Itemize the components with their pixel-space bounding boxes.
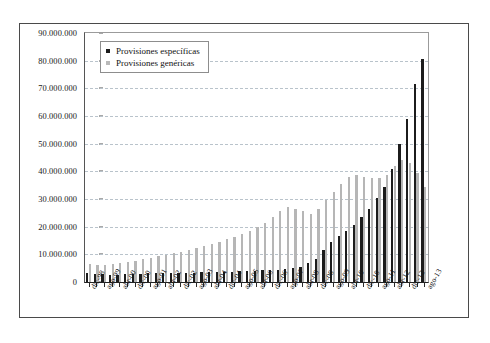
bar-group — [276, 33, 284, 282]
bar-provisiones-genericas — [348, 177, 350, 282]
bar-group — [222, 33, 230, 282]
bar-provisiones-genericas — [150, 258, 152, 282]
y-tick-label: 0 — [73, 278, 77, 287]
bar-group — [321, 33, 329, 282]
bar-group — [382, 33, 390, 282]
bar-group — [420, 33, 428, 282]
legend-label-especificas: Provisiones específicas — [116, 45, 200, 57]
y-tick-label: 10.000.000 — [38, 250, 77, 259]
legend-swatch-icon-genericas — [106, 61, 110, 65]
bar-group — [253, 33, 261, 282]
bar-group — [329, 33, 337, 282]
legend-label-genericas: Provisiones genéricas — [116, 57, 194, 69]
legend-swatch-icon-especificas — [106, 49, 110, 53]
bar-group — [215, 33, 223, 282]
bar-provisiones-genericas — [180, 252, 182, 282]
bar-group — [268, 33, 276, 282]
bar-provisiones-genericas — [89, 264, 91, 282]
bar-provisiones-genericas — [409, 163, 411, 282]
bar-group — [352, 33, 360, 282]
bar-provisiones-genericas — [386, 175, 388, 282]
bar-provisiones-genericas — [401, 160, 403, 282]
bar-provisiones-especificas — [86, 273, 88, 282]
bar-group — [344, 33, 352, 282]
bar-group — [237, 33, 245, 282]
bar-group — [230, 33, 238, 282]
bar-group — [405, 33, 413, 282]
bar-provisiones-genericas — [378, 178, 380, 282]
bar-provisiones-especificas — [406, 119, 408, 282]
bar-provisiones-genericas — [371, 178, 373, 282]
y-axis: 90.000.00080.000.00070.000.00060.000.000… — [19, 23, 81, 318]
bar-provisiones-genericas — [333, 192, 335, 282]
bar-provisiones-especificas — [391, 169, 393, 282]
bar-group — [367, 33, 375, 282]
y-tick-label: 80.000.000 — [38, 56, 77, 65]
y-tick-label: 70.000.000 — [38, 84, 77, 93]
bar-group — [260, 33, 268, 282]
bar-provisiones-especificas — [368, 209, 370, 282]
bar-provisiones-genericas — [424, 187, 426, 282]
y-tick-label: 20.000.000 — [38, 222, 77, 231]
legend-item-genericas: Provisiones genéricas — [106, 57, 200, 69]
y-tick-label: 30.000.000 — [38, 195, 77, 204]
bar-provisiones-genericas — [355, 175, 357, 282]
chart-legend: Provisiones específicas Provisiones gené… — [100, 41, 209, 73]
bar-provisiones-especificas — [398, 144, 400, 282]
bar-group — [337, 33, 345, 282]
bar-provisiones-genericas — [416, 173, 418, 282]
bar-group — [390, 33, 398, 282]
bar-provisiones-genericas — [340, 184, 342, 282]
y-tick-label: 90.000.000 — [38, 29, 77, 38]
bar-group — [359, 33, 367, 282]
y-tick-label: 50.000.000 — [38, 139, 77, 148]
bar-provisiones-genericas — [394, 166, 396, 282]
chart-figure: 90.000.00080.000.00070.000.00060.000.000… — [0, 0, 490, 343]
bar-group — [85, 33, 93, 282]
x-axis-labels: dic-98ago-99abr-00dic-00ago-01abr-02dic-… — [85, 286, 428, 334]
bar-group — [398, 33, 406, 282]
bar-group — [314, 33, 322, 282]
bar-group — [291, 33, 299, 282]
bar-provisiones-especificas — [414, 84, 416, 282]
bar-group — [283, 33, 291, 282]
bar-group — [375, 33, 383, 282]
y-tick-label: 60.000.000 — [38, 112, 77, 121]
y-tick-label: 40.000.000 — [38, 167, 77, 176]
bar-provisiones-especificas — [421, 59, 423, 282]
bar-provisiones-genericas — [363, 177, 365, 282]
bar-group — [413, 33, 421, 282]
bar-group — [298, 33, 306, 282]
bar-provisiones-especificas — [383, 187, 385, 282]
bar-group — [306, 33, 314, 282]
legend-item-especificas: Provisiones específicas — [106, 45, 200, 57]
bar-group — [245, 33, 253, 282]
